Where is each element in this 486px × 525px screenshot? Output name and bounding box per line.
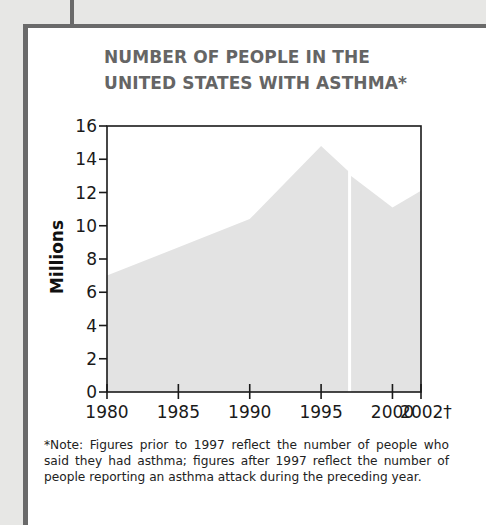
chart-footnote: *Note: Figures prior to 1997 reflect the… xyxy=(44,437,449,485)
y-tick-label: 6 xyxy=(86,282,97,302)
y-tick-label: 14 xyxy=(75,149,97,169)
y-tick-label: 4 xyxy=(86,316,97,336)
x-tick-label: 1985 xyxy=(157,402,200,422)
y-axis-ticks: 0246810121416 xyxy=(75,116,107,402)
y-tick-label: 16 xyxy=(75,116,97,136)
series-area-2 xyxy=(351,176,421,392)
x-tick-label: 1995 xyxy=(299,402,342,422)
y-tick-label: 12 xyxy=(75,183,97,203)
y-axis-label: Millions xyxy=(47,220,67,294)
data-areas xyxy=(107,146,421,392)
y-tick-label: 8 xyxy=(86,249,97,269)
x-tick-label: 2002† xyxy=(400,402,452,422)
y-tick-label: 10 xyxy=(75,216,97,236)
y-tick-label: 0 xyxy=(86,382,97,402)
series-area-1 xyxy=(107,146,348,392)
y-tick-label: 2 xyxy=(86,349,97,369)
x-tick-label: 1990 xyxy=(228,402,271,422)
x-tick-label: 1980 xyxy=(85,402,128,422)
